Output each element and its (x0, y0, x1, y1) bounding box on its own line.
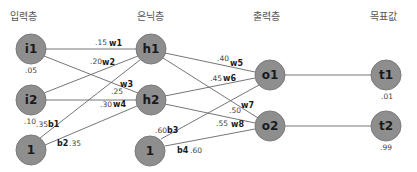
weight-value-w6: .45 (210, 74, 222, 83)
node-value-i2: .10 (24, 117, 36, 126)
weight-name-b3: b3 (167, 126, 178, 135)
layer-title-target: 목표값 (370, 11, 397, 22)
weight-value-b2: .35 (69, 139, 81, 148)
node-value-t2: .99 (380, 143, 392, 152)
node-o2: o2 (255, 111, 285, 141)
weight-name-w8: w8 (231, 120, 244, 129)
node-bias-input: 1 (16, 135, 46, 165)
layer-titles: 입력층 은닉층 출력층 목표값 (10, 10, 397, 22)
node-label-t1: t1 (379, 68, 393, 82)
neural-network-diagram: 입력층 은닉층 출력층 목표값 .15 w1 .20 w2 w3 .25 .30… (0, 0, 417, 172)
weight-value-b3: .60 (155, 126, 167, 135)
layer-title-hidden: 은닉층 (137, 11, 164, 22)
edge-b4 (165, 129, 255, 146)
weight-value-w8: .55 (216, 119, 228, 128)
layer-title-output: 출력층 (253, 11, 280, 22)
weight-value-w3: .25 (111, 87, 123, 96)
node-h1: h1 (136, 34, 166, 64)
node-bias-hidden: 1 (135, 136, 165, 166)
weight-value-b4: .60 (190, 146, 202, 155)
weight-name-b4: b4 (177, 146, 189, 155)
node-h2: h2 (136, 85, 166, 115)
weight-value-w1: .15 (95, 38, 107, 47)
weight-name-w1: w1 (109, 39, 122, 48)
weight-name-w2: w2 (102, 58, 115, 67)
node-i2: i2 (16, 85, 46, 115)
node-label-i2: i2 (25, 93, 37, 107)
node-o1: o1 (255, 60, 285, 90)
node-value-t1: .01 (381, 92, 393, 101)
node-label-o2: o2 (262, 119, 279, 133)
layer-title-input: 입력층 (10, 10, 37, 22)
node-t1: t1 (371, 60, 401, 90)
node-i1: i1 (16, 34, 46, 64)
weight-name-w4: w4 (113, 100, 126, 109)
node-label-i1: i1 (25, 42, 37, 56)
weight-value-b1: .35 (36, 120, 48, 129)
weight-name-w6: w6 (223, 74, 236, 83)
weight-value-w7: .50 (229, 106, 241, 115)
node-value-i1: .05 (25, 66, 37, 75)
node-label-bias-input: 1 (27, 143, 35, 157)
weight-name-b1: b1 (48, 120, 60, 129)
weight-value-w4: .30 (100, 100, 112, 109)
weight-name-w7: w7 (241, 101, 254, 110)
node-label-bias-hidden: 1 (146, 144, 154, 158)
node-label-o1: o1 (262, 68, 279, 82)
node-t2: t2 (371, 111, 401, 141)
weight-value-w2: .20 (90, 57, 102, 66)
node-label-h2: h2 (143, 93, 160, 107)
node-label-t2: t2 (379, 119, 393, 133)
weight-name-w5: w5 (230, 59, 243, 68)
weight-value-w5: .40 (217, 54, 229, 63)
node-label-h1: h1 (143, 42, 160, 56)
weight-name-b2: b2 (57, 139, 68, 148)
